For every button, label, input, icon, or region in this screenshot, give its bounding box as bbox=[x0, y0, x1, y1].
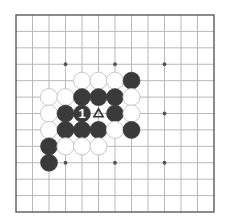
black-stone bbox=[40, 138, 57, 155]
move-number-label: 1 bbox=[78, 106, 85, 121]
white-stone bbox=[57, 89, 74, 106]
black-stone bbox=[90, 121, 107, 138]
white-stone bbox=[90, 72, 107, 89]
white-stone bbox=[73, 138, 90, 155]
black-stone bbox=[123, 121, 140, 138]
black-stone bbox=[73, 121, 90, 138]
stones-layer: 1 bbox=[40, 72, 140, 171]
white-stone bbox=[123, 89, 140, 106]
star-point bbox=[163, 62, 167, 66]
star-point bbox=[64, 161, 68, 165]
star-point bbox=[113, 161, 117, 165]
black-stone bbox=[57, 121, 74, 138]
white-stone bbox=[90, 138, 107, 155]
star-point bbox=[163, 112, 167, 116]
black-stone bbox=[123, 72, 140, 89]
white-stone bbox=[40, 89, 57, 106]
black-stone bbox=[40, 154, 57, 171]
star-point bbox=[163, 161, 167, 165]
star-point bbox=[64, 62, 68, 66]
black-stone bbox=[73, 89, 90, 106]
white-stone bbox=[57, 138, 74, 155]
go-board: 1 bbox=[0, 0, 229, 221]
star-point bbox=[113, 62, 117, 66]
white-stone bbox=[123, 105, 140, 122]
white-stone bbox=[40, 105, 57, 122]
white-stone bbox=[106, 72, 123, 89]
black-stone bbox=[90, 89, 107, 106]
white-stone bbox=[106, 121, 123, 138]
black-stone bbox=[106, 89, 123, 106]
black-stone bbox=[106, 105, 123, 122]
white-stone bbox=[40, 121, 57, 138]
white-stone bbox=[73, 72, 90, 89]
black-stone bbox=[57, 105, 74, 122]
